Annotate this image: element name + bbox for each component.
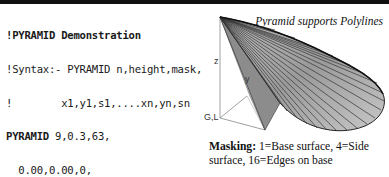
code-args: 9,0.3,63, [49,130,110,142]
axis-label-y: y [245,74,250,84]
code-line-syntax: !Syntax:- PYRAMID n,height,mask, [6,64,202,75]
axis-label-z: z [214,56,219,66]
code-line-point: 0.00,0.00,0, [6,165,202,176]
code-line-syntax-cont: ! x1,y1,s1,....xn,yn,sn [6,98,202,109]
code-line-title: !PYRAMID Demonstration [6,30,202,41]
masking-note: Masking: 1=Base surface, 4=Side surface,… [209,140,387,168]
pyramid-render-illustration [205,8,389,138]
code-listing: !PYRAMID Demonstration !Syntax:- PYRAMID… [6,8,202,177]
code-line-command: PYRAMID 9,0.3,63, [6,131,202,142]
axis-label-origin: G,L [204,112,219,122]
top-border-bar [0,0,389,4]
code-keyword: PYRAMID [6,130,49,142]
masking-label: Masking: [209,140,256,153]
pyramid-figure: Pyramid supports Polylines z y G,L [205,8,389,138]
figure-title: Pyramid supports Polylines [255,15,383,27]
